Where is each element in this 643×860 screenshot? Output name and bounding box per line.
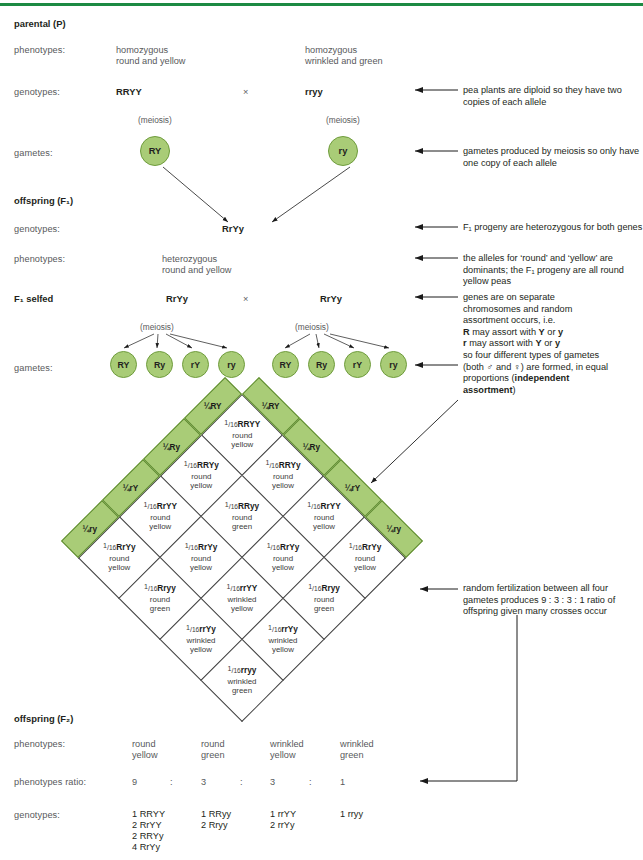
f2-ratio-sep-0: : [170,777,173,789]
gamete-circle-parental-left: RY [140,136,170,166]
punnett-header-label: ¼RY [262,401,280,410]
punnett-header-label: ¼Ry [303,442,320,451]
annotation-line-9: assortment) [463,385,643,397]
f1-phenotype-line1: heterozygous [162,254,217,266]
arrow-meiosis-left-2 [166,334,192,348]
f2-genotype-1-0: 1 RRyy [201,809,231,821]
f2-phenotype-3-line1: wrinkled [340,739,374,751]
gamete-circle-f1-left-1: Ry [146,351,173,378]
parental-phenotype-left-line1: homozygous [116,45,168,57]
f2-phenotype-2-line2: yellow [270,750,296,762]
section-title-f2: offspring (F₂) [14,713,73,725]
annotation-line-2: chromosomes and random [463,304,643,316]
punnett-header-label: ¼rY [123,483,138,492]
section-title-f1: offspring (F₁) [14,195,73,207]
annotation-line-1: genes are on separate [463,292,643,304]
f2-phenotype-0-line1: round [132,739,156,751]
annotation-text: or [542,338,555,348]
meiosis-label-right-p: (meiosis) [326,115,360,125]
row-label-gametes-f1: gametes: [14,363,53,375]
gamete-circle-parental-right: ry [328,136,358,166]
annotation-line-8: proportions (independent [463,373,643,385]
allele-R: R [463,327,470,337]
f2-phenotype-1-line2: green [201,750,225,762]
punnett-header-label: ¼ry [83,525,98,534]
gamete-circle-f1-right-1: Ry [308,351,335,378]
f2-genotype-0-0: 1 RRYY [132,809,165,821]
annotation-f1-heterozygous: F₁ progeny are heterozygous for both gen… [463,222,643,234]
annotation-text: may assort with [467,338,536,348]
annotation-line-7: (both ♂ and ♀) are formed, in equal [463,362,643,374]
f2-phenotype-2-line1: wrinkled [270,739,304,751]
parental-phenotype-right-line1: homozygous [305,45,357,57]
f1-genotype: RrYy [222,223,244,235]
annotation-line-4: R may assort with Y or y [463,327,643,339]
top-rule [0,3,643,6]
row-label-phenotypes-f2: phenotypes: [14,739,65,751]
f2-genotype-0-3: 4 RrYy [132,842,160,854]
f2-ratio-2: 3 [270,777,275,789]
row-label-genotypes-p: genotypes: [14,87,60,99]
arrow-meiosis-right-0 [285,334,310,348]
meiosis-label-left-f1: (meiosis) [140,322,174,332]
annotation-independent-assortment: genes are on separate chromosomes and ra… [463,292,643,396]
punnett-square-diamond: 1/16RRYYroundyellow1/16RRYyroundyellow1/… [57,398,427,728]
row-label-phenotypes-f1: phenotypes: [14,254,65,266]
f2-ratio-sep-2: : [309,777,312,789]
f2-genotype-0-2: 2 RRYy [132,831,164,843]
f2-genotype-2-0: 1 rrYY [270,809,296,821]
punnett-header-label: ¼RY [204,401,222,410]
annotation-line-5: r may assort with Y or y [463,338,643,350]
f2-ratio-0: 9 [132,777,137,789]
arrow-meiosis-left-0 [124,334,154,348]
punnett-header-label: ¼Ry [163,442,180,451]
annotation-text: or [545,327,558,337]
f1-selfed-genotype-left: RrYy [166,293,188,305]
punnett-header-label: ¼ry [387,525,402,534]
annotation-text: may assort with [470,327,539,337]
f2-ratio-1: 3 [201,777,206,789]
gamete-circle-f1-left-3: ry [218,351,245,378]
f2-genotype-3-0: 1 rryy [340,809,363,821]
annotation-random-fertilization: random fertilization between all four ga… [463,583,643,618]
f2-ratio-sep-1: : [240,777,243,789]
f2-genotype-1-1: 2 Rryy [201,820,228,832]
parental-genotype-left: RRYY [116,86,142,98]
term-assortment: assortment [463,385,513,395]
meiosis-label-left-p: (meiosis) [138,115,172,125]
cross-symbol-f1: × [243,294,248,306]
f1-selfed-genotype-right: RrYy [320,293,342,305]
parental-genotype-right: rryy [305,86,323,98]
f2-phenotype-0-line2: yellow [132,750,158,762]
arrow-meiosis-right-2 [324,334,354,348]
punnett-left-headers: ¼RY¼Ry¼rY¼ry [78,394,406,722]
gamete-circle-f1-right-3: ry [380,351,407,378]
annotation-line-3: assortment occurs, i.e. [463,315,643,327]
row-label-gametes-p: gametes: [14,148,53,160]
arrow-meiosis-right-1 [316,334,319,348]
f2-ratio-3: 1 [340,777,345,789]
f1-phenotype-line2: round and yellow [162,265,231,277]
cross-symbol-p: × [243,87,248,99]
f2-phenotype-3-line2: green [340,750,364,762]
row-label-genotypes-f2: genotypes: [14,810,60,822]
term-independent: independent [515,373,570,383]
section-title-parental: parental (P) [14,18,66,30]
gamete-circle-f1-right-2: rY [344,351,371,378]
f2-phenotype-1-line1: round [201,739,225,751]
allele-y: y [558,327,563,337]
annotation-diploid: pea plants are diploid so they have two … [463,85,643,108]
gamete-circle-f1-right-0: RY [272,351,299,378]
meiosis-label-right-f1: (meiosis) [295,322,329,332]
allele-y: y [555,338,560,348]
row-label-genotypes-f1: genotypes: [14,224,60,236]
parental-phenotype-left-line2: round and yellow [116,56,185,68]
parental-phenotype-right-line2: wrinkled and green [305,56,383,68]
arrow-meiosis-right-3 [330,334,389,348]
f2-genotype-0-1: 2 RrYY [132,820,162,832]
annotation-line-6: so four different types of gametes [463,350,643,362]
genetics-diagram-page: parental (P) phenotypes: homozygous roun… [0,0,643,860]
punnett-header-left-3: ¼ry [61,500,119,558]
f2-genotype-2-1: 2 rrYy [270,820,295,832]
gamete-circle-f1-left-0: RY [110,351,137,378]
